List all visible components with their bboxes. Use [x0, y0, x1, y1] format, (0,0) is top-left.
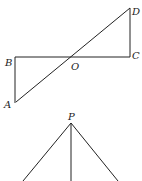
figure-z-shape: D C B A O [3, 6, 140, 110]
figure-p-tripod: P [23, 111, 118, 181]
label-p: P [67, 111, 75, 122]
geometry-diagram: D C B A O P [0, 0, 142, 181]
label-a: A [3, 99, 11, 110]
label-o: O [71, 61, 79, 72]
label-d: D [131, 6, 140, 17]
label-c: C [132, 50, 140, 61]
segment-ad [16, 8, 130, 102]
label-b: B [4, 57, 12, 68]
segment-p-right [71, 123, 118, 181]
segment-p-left [23, 123, 71, 181]
